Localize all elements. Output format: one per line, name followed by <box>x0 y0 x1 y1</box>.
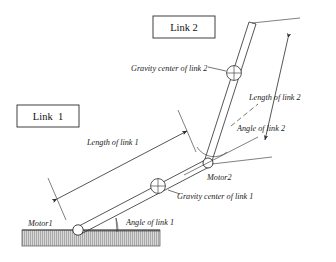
link2-callout-box[interactable]: Link 2 <box>153 16 215 38</box>
angle-of-link2-arc <box>197 147 227 157</box>
label-length-of-link1: Length of link 1 <box>86 138 139 147</box>
gravity-center-link2-leader <box>208 67 226 71</box>
label-motor1: Motor1 <box>27 219 53 228</box>
link2-callout-label: Link 2 <box>170 22 198 33</box>
gravity-center-link2-icon <box>227 66 242 81</box>
figure-canvas: Gravity center of link 2 Gravity center … <box>0 0 336 262</box>
length-of-link2-dimension <box>212 18 300 164</box>
link1-callout-box[interactable]: Link 1 <box>17 105 79 127</box>
angle-of-link2-leader <box>231 104 258 126</box>
motor2-reference-axis <box>184 137 258 175</box>
motor1-joint-icon <box>73 225 83 235</box>
label-gravity-center-link1: Gravity center of link 1 <box>177 192 253 201</box>
label-angle-of-link1: Angle of link 1 <box>125 218 174 227</box>
label-angle-of-link2: Angle of link 2 <box>236 124 285 133</box>
link1-callout-label: Link 1 <box>33 111 63 122</box>
manipulator-diagram: Gravity center of link 2 Gravity center … <box>0 0 336 262</box>
label-motor2: Motor2 <box>206 173 232 182</box>
ground-hatching <box>22 230 160 246</box>
label-length-of-link2: Length of link 2 <box>248 93 301 102</box>
gravity-center-link1-icon <box>151 179 166 194</box>
label-gravity-center-link2: Gravity center of link 2 <box>131 64 207 73</box>
